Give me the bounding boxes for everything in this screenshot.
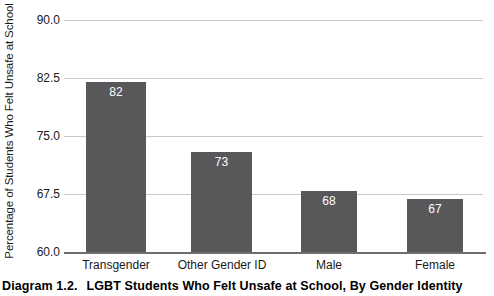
x-tick-label-transgender: Transgender [56,258,176,272]
x-tick-label-other-gender-id: Other Gender ID [160,258,284,272]
y-tick-label-90: 90.0 [12,14,60,26]
bar-value-male: 68 [301,195,357,208]
bar-value-female: 67 [407,203,463,216]
x-tick-label-female: Female [376,258,494,272]
bar-value-other-gender-id: 73 [191,156,252,169]
y-tick-label-67-5: 67.5 [12,188,60,200]
bar-value-transgender: 82 [86,86,146,99]
caption-number: Diagram 1.2. [2,279,78,293]
bar-male[interactable]: 68 [301,191,357,253]
caption-text: LGBT Students Who Felt Unsafe at School,… [87,279,463,293]
y-tick-label-60: 60.0 [12,246,60,258]
bar-other-gender-id[interactable]: 73 [191,152,252,253]
gridline-90 [64,20,483,21]
bar-female[interactable]: 67 [407,199,463,253]
y-axis-tick-labels: 90.0 82.5 75.0 67.5 60.0 [10,0,60,296]
chart-figure: Percentage of Students Who Felt Unsafe a… [0,0,494,296]
y-tick-label-75: 75.0 [12,130,60,142]
bar-transgender[interactable]: 82 [86,82,146,253]
plot-area: 82 73 68 67 [64,20,483,253]
gridline-82-5 [64,78,483,79]
x-axis-line [64,252,486,254]
x-tick-label-male: Male [270,258,388,272]
y-tick-label-82-5: 82.5 [12,72,60,84]
figure-caption: Diagram 1.2.LGBT Students Who Felt Unsaf… [2,279,494,293]
